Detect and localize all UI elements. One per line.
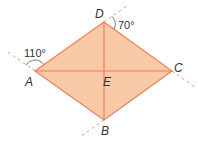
point-label-e: E (103, 75, 112, 89)
point-label-d: D (95, 7, 104, 21)
angle-arc-a (26, 60, 44, 65)
point-label-c: C (174, 61, 183, 75)
angle-label-a: 110° (24, 47, 46, 59)
angle-label-d: 70° (118, 19, 135, 31)
rhombus-diagram: 110° 70° A B C D E (0, 0, 198, 145)
point-label-a: A (24, 75, 33, 89)
angle-arc-d (112, 17, 115, 30)
point-label-b: B (101, 124, 109, 138)
